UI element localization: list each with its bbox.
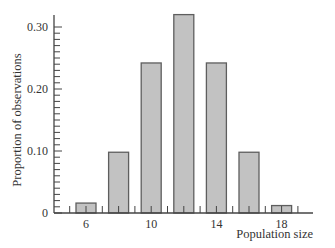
bar-10 [141,63,161,213]
bar-14 [206,63,226,213]
bar-8 [109,152,129,213]
y-tick-label: 0.30 [27,20,48,34]
x-tick-label: 10 [145,217,157,231]
y-tick-label: 0.10 [27,144,48,158]
bar-16 [239,152,259,213]
y-tick-label: 0 [42,206,48,220]
x-tick-label: 6 [83,217,89,231]
bar-chart: 00.100.200.306101418 Population size Pro… [0,0,335,248]
x-axis-title: Population size [236,227,313,241]
y-axis-title: Proportion of observations [10,53,24,186]
y-tick-label: 0.20 [27,82,48,96]
bars-group [76,15,292,213]
bar-12 [174,15,194,213]
x-tick-label: 14 [210,217,222,231]
